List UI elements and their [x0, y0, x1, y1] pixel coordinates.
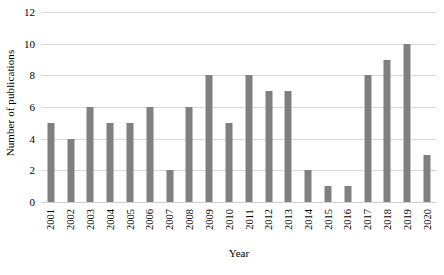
bar-2011	[245, 75, 252, 202]
x-tick-text: 2002	[65, 209, 76, 230]
y-axis-title: Number of publications	[0, 0, 20, 205]
x-tick-text: 2015	[323, 209, 334, 230]
bar-slot	[358, 12, 378, 202]
bar-slot	[199, 12, 219, 202]
x-tick-text: 2010	[224, 209, 235, 230]
bar-2015	[325, 186, 332, 202]
x-tick-label-2014: 2014	[298, 203, 318, 243]
bar-slot	[100, 12, 120, 202]
bar-2008	[186, 107, 193, 202]
x-tick-label-2011: 2011	[239, 203, 259, 243]
x-tick-text: 2011	[243, 209, 254, 230]
bar-2003	[87, 107, 94, 202]
x-tick-label-2006: 2006	[140, 203, 160, 243]
bar-slot	[279, 12, 299, 202]
x-tick-text: 2008	[184, 209, 195, 230]
x-tick-text: 2009	[204, 209, 215, 230]
bar-slot	[318, 12, 338, 202]
bars-layer	[41, 12, 437, 202]
bar-2013	[285, 91, 292, 202]
bar-chart: Number of publications 024681012 2001200…	[0, 0, 444, 275]
x-tick-text: 2006	[144, 209, 155, 230]
bar-slot	[338, 12, 358, 202]
bar-slot	[160, 12, 180, 202]
x-tick-label-2015: 2015	[318, 203, 338, 243]
y-tick-label-8: 8	[30, 69, 36, 81]
x-tick-text: 2020	[422, 209, 433, 230]
bar-slot	[180, 12, 200, 202]
y-axis-tick-labels: 024681012	[20, 12, 38, 202]
x-tick-text: 2016	[342, 209, 353, 230]
x-axis-tick-labels: 2001200220032004200520062007200820092010…	[41, 203, 437, 243]
bar-2006	[146, 107, 153, 202]
bar-slot	[417, 12, 437, 202]
bar-2005	[127, 123, 134, 202]
x-tick-label-2008: 2008	[180, 203, 200, 243]
bar-slot	[61, 12, 81, 202]
bar-slot	[120, 12, 140, 202]
x-tick-label-2009: 2009	[199, 203, 219, 243]
bar-slot	[378, 12, 398, 202]
x-tick-label-2012: 2012	[259, 203, 279, 243]
x-tick-label-2013: 2013	[279, 203, 299, 243]
bar-2009	[206, 75, 213, 202]
y-tick-label-4: 4	[30, 133, 36, 145]
bar-slot	[239, 12, 259, 202]
x-tick-label-2005: 2005	[120, 203, 140, 243]
bar-2019	[404, 44, 411, 202]
bar-2004	[107, 123, 114, 202]
x-tick-text: 2003	[85, 209, 96, 230]
bar-2010	[226, 123, 233, 202]
x-tick-label-2004: 2004	[100, 203, 120, 243]
y-axis-title-label: Number of publications	[4, 49, 16, 156]
x-tick-text: 2014	[303, 209, 314, 230]
bar-slot	[298, 12, 318, 202]
y-tick-label-0: 0	[30, 196, 36, 208]
x-tick-label-2018: 2018	[378, 203, 398, 243]
bar-2001	[47, 123, 54, 202]
bar-2018	[384, 60, 391, 203]
x-tick-label-2001: 2001	[41, 203, 61, 243]
x-tick-label-2019: 2019	[397, 203, 417, 243]
x-tick-label-2016: 2016	[338, 203, 358, 243]
x-tick-text: 2001	[45, 209, 56, 230]
x-tick-label-2002: 2002	[61, 203, 81, 243]
bar-slot	[140, 12, 160, 202]
x-tick-text: 2018	[382, 209, 393, 230]
bar-2014	[305, 170, 312, 202]
bar-2002	[67, 139, 74, 202]
x-tick-label-2003: 2003	[81, 203, 101, 243]
bar-slot	[41, 12, 61, 202]
bar-2016	[344, 186, 351, 202]
plot-area	[41, 12, 437, 202]
bar-slot	[259, 12, 279, 202]
x-tick-label-2007: 2007	[160, 203, 180, 243]
x-tick-text: 2013	[283, 209, 294, 230]
x-tick-label-2020: 2020	[417, 203, 437, 243]
y-tick-label-6: 6	[30, 101, 36, 113]
x-tick-text: 2017	[362, 209, 373, 230]
y-tick-label-12: 12	[24, 6, 35, 18]
bar-slot	[397, 12, 417, 202]
x-tick-label-2010: 2010	[219, 203, 239, 243]
x-tick-text: 2005	[125, 209, 136, 230]
x-tick-text: 2019	[402, 209, 413, 230]
bar-slot	[81, 12, 101, 202]
x-tick-text: 2004	[105, 209, 116, 230]
y-tick-label-10: 10	[24, 38, 35, 50]
bar-2012	[265, 91, 272, 202]
y-tick-label-2: 2	[30, 164, 36, 176]
bar-slot	[219, 12, 239, 202]
x-axis-title: Year	[41, 247, 437, 259]
x-tick-label-2017: 2017	[358, 203, 378, 243]
bar-2017	[364, 75, 371, 202]
x-tick-text: 2012	[263, 209, 274, 230]
bar-2007	[166, 170, 173, 202]
x-tick-text: 2007	[164, 209, 175, 230]
bar-2020	[424, 155, 431, 203]
